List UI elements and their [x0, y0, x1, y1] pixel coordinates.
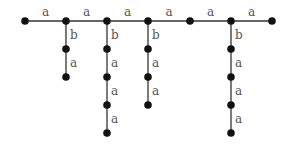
- edge-label: a: [70, 56, 77, 70]
- edge-label: a: [83, 5, 90, 19]
- node-dot: [144, 17, 152, 25]
- edge-label: a: [152, 84, 159, 98]
- edge-label: a: [42, 5, 49, 19]
- node-dot: [186, 17, 194, 25]
- edge-label: b: [152, 28, 160, 42]
- node-dot: [227, 45, 235, 53]
- edge-label: a: [111, 112, 118, 126]
- edge-label: b: [111, 28, 119, 42]
- node-dot: [144, 45, 152, 53]
- node-dot: [144, 101, 152, 109]
- node-dot: [62, 73, 70, 81]
- edge-label: a: [111, 56, 118, 70]
- node-dot: [62, 17, 70, 25]
- node-dot: [268, 17, 276, 25]
- edge-label: a: [124, 5, 131, 19]
- tree-diagram: aaaaaababaaabaabaaa: [0, 0, 290, 146]
- node-dot: [227, 73, 235, 81]
- node-dot: [144, 73, 152, 81]
- node-dot: [103, 17, 111, 25]
- node-dot: [103, 45, 111, 53]
- edge-label: b: [70, 28, 78, 42]
- edge-label: a: [152, 56, 159, 70]
- node-dot: [103, 129, 111, 137]
- edge-label: a: [235, 56, 242, 70]
- edge-label: a: [111, 84, 118, 98]
- edge-label: a: [165, 5, 172, 19]
- node-dot: [227, 129, 235, 137]
- node-dot: [103, 101, 111, 109]
- node-dot: [227, 101, 235, 109]
- edge-label: a: [248, 5, 255, 19]
- node-dot: [103, 73, 111, 81]
- edge-label: b: [235, 28, 243, 42]
- node-dot: [62, 45, 70, 53]
- edge-label: a: [235, 84, 242, 98]
- edge-label: a: [235, 112, 242, 126]
- node-dot: [227, 17, 235, 25]
- node-dot: [21, 17, 29, 25]
- edge-label: a: [207, 5, 214, 19]
